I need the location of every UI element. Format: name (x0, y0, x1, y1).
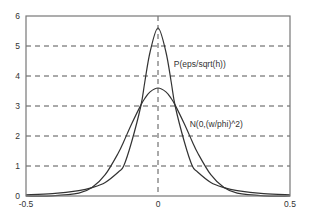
x-axis-ticks: -0.500.5 (19, 199, 297, 209)
y-tick-label: 3 (15, 101, 20, 111)
x-tick-label: 0.5 (284, 199, 296, 209)
x-tick-label: -0.5 (19, 199, 34, 209)
y-tick-label: 6 (15, 11, 20, 21)
y-tick-label: 1 (15, 161, 20, 171)
y-tick-label: 5 (15, 41, 20, 51)
grid-lines (26, 16, 290, 196)
density-chart: 0123456 -0.500.5 P(eps/sqrt(h))N(0,(w/ph… (0, 0, 311, 217)
label-normal: N(0,(w/phi)^2) (190, 119, 243, 129)
y-tick-label: 4 (15, 71, 20, 81)
y-axis-ticks: 0123456 (15, 11, 20, 201)
label-p-eps: P(eps/sqrt(h)) (174, 59, 226, 69)
x-tick-label: 0 (156, 199, 161, 209)
y-tick-label: 2 (15, 131, 20, 141)
annotations: P(eps/sqrt(h))N(0,(w/phi)^2) (174, 59, 243, 129)
